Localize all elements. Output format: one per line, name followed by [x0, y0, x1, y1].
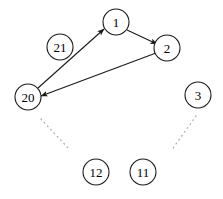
graph-svg: 12212031211: [0, 0, 223, 199]
node-21[interactable]: 21: [47, 34, 73, 60]
dotted-edges-layer: [41, 116, 196, 151]
node-12[interactable]: 12: [83, 159, 109, 185]
dotted-right: [171, 116, 196, 151]
node-11[interactable]: 11: [130, 159, 156, 185]
node-20[interactable]: 20: [15, 84, 41, 110]
node-1[interactable]: 1: [103, 9, 129, 35]
node-label-20: 20: [22, 90, 35, 105]
node-label-1: 1: [113, 15, 120, 30]
node-label-2: 2: [164, 41, 171, 56]
graph-diagram-canvas: 12212031211: [0, 0, 223, 199]
node-2[interactable]: 2: [154, 35, 180, 61]
edge-20-1[interactable]: [38, 29, 104, 88]
nodes-layer: 12212031211: [15, 9, 211, 185]
node-label-12: 12: [90, 165, 103, 180]
node-label-3: 3: [195, 88, 202, 103]
node-3[interactable]: 3: [185, 82, 211, 108]
node-label-21: 21: [54, 40, 67, 55]
edge-1-2[interactable]: [127, 30, 157, 44]
dotted-left: [41, 119, 70, 150]
node-label-11: 11: [137, 165, 150, 180]
